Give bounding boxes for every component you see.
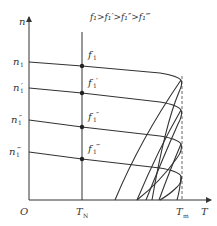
y-axis-label: n [19,16,25,27]
caption [0,219,217,226]
label-n1-dprime: n 1 ″ [11,113,22,126]
label-f1: f 1 [87,49,97,61]
curve-n1-prime [29,88,182,200]
svg-text:m: m [183,212,189,219]
frequency-relation: f₁>f₁′>f₁″>f₁‴ [89,12,151,22]
tick-Tm: T m [176,206,189,219]
speed-torque-diagram: n T O T N T m n 1 n 1 ′ n 1 ″ n 1 ‴ f 1 … [0,0,217,226]
svg-text:N: N [83,212,88,219]
svg-text:′: ′ [21,81,23,90]
point-f1-dprime [80,125,84,129]
svg-text:1: 1 [93,54,97,61]
svg-text:″: ″ [96,110,99,119]
label-f1-tprime: f 1 ‴ [87,142,101,155]
curve-n1-tprime [29,152,181,200]
x-axis-label: T [201,206,209,217]
svg-text:″: ″ [19,113,22,122]
point-f1-prime [80,91,84,95]
label-f1-prime: f 1 ′ [87,76,98,89]
svg-text:‴: ‴ [17,145,22,154]
svg-text:‴: ‴ [96,142,101,151]
svg-text:n: n [13,56,19,67]
svg-text:n: n [13,82,19,93]
point-f1-tprime [80,157,84,161]
label-n1: n 1 [13,56,24,68]
curve-n1 [29,62,182,200]
curve-n1-dprime [29,120,182,200]
svg-text:n: n [11,114,17,125]
tick-TN: T N [76,206,88,219]
label-f1-dprime: f 1 ″ [87,110,99,123]
svg-text:n: n [9,146,15,157]
label-n1-tprime: n 1 ‴ [9,145,22,158]
origin-label: O [20,206,28,217]
characteristic-curves [29,62,182,200]
label-n1-prime: n 1 ′ [13,81,24,94]
point-f1 [80,64,84,68]
svg-text:1: 1 [20,61,24,68]
svg-text:′: ′ [96,76,98,85]
